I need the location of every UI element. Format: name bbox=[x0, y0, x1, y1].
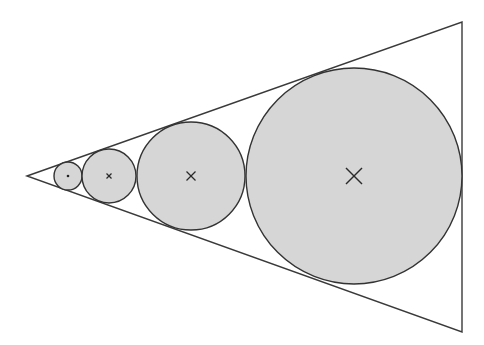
circles-group bbox=[54, 68, 462, 284]
circle-1-center-dot-icon bbox=[67, 175, 70, 178]
tangent-circles-diagram bbox=[0, 0, 484, 345]
